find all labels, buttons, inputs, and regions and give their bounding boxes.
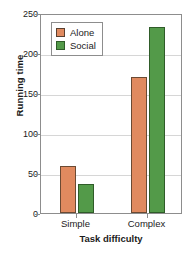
bar-alone-simple (60, 166, 76, 213)
plot-area: Alone Social (40, 14, 182, 214)
legend-swatch-alone-icon (56, 28, 65, 37)
legend-item-alone: Alone (56, 26, 96, 39)
y-axis-tick-label: 150 (4, 89, 38, 99)
legend-label-alone: Alone (70, 27, 94, 38)
x-axis-tick-label: Simple (61, 218, 90, 229)
legend-swatch-social-icon (56, 41, 65, 50)
y-axis-title: Running time (14, 31, 25, 141)
x-axis-tick-mark (147, 214, 148, 218)
x-axis-tick-mark (76, 214, 77, 218)
y-axis-tick-label: 100 (4, 129, 38, 139)
x-axis-tick-label: Complex (128, 218, 166, 229)
y-axis-tick-label: 50 (4, 169, 38, 179)
x-axis-title: Task difficulty (40, 233, 182, 244)
y-axis-tick-label: 200 (4, 49, 38, 59)
y-axis-tick-label: 0 (4, 209, 38, 219)
y-axis-tick-mark (35, 214, 40, 215)
bar-social-complex (149, 27, 165, 213)
bar-chart-figure: Running time 050100150200250 Alone Socia… (0, 0, 193, 257)
bar-alone-complex (131, 77, 147, 213)
bar-social-simple (78, 184, 94, 213)
legend-item-social: Social (56, 39, 96, 52)
y-axis-tick-label: 250 (4, 9, 38, 19)
legend-label-social: Social (70, 40, 96, 51)
chart-legend: Alone Social (51, 22, 103, 56)
